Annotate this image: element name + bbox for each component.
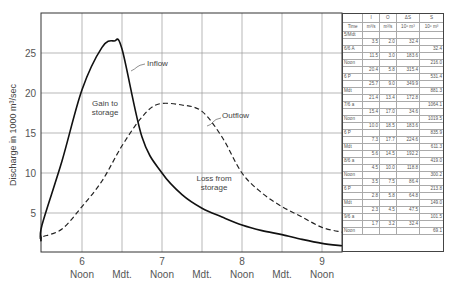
table-cell: 4.5: [380, 207, 397, 214]
table-row: 5/Mdt: [343, 32, 444, 39]
x-axis-ticks: 6NoonMdt.7NoonMdt.8NoonMdt.9Noon: [70, 256, 334, 280]
table-cell: 611.3: [420, 144, 444, 151]
table-cell: [363, 214, 380, 221]
table-cell: [420, 109, 444, 116]
table-cell: [343, 53, 363, 60]
table-cell: [420, 221, 444, 228]
table-cell: 9/6 a: [343, 214, 363, 221]
x-tick-day: 6: [79, 256, 85, 267]
x-tick-label: Noon: [310, 269, 334, 280]
table-row: 3.52.032.4: [343, 39, 444, 46]
table-header: IOΔSSTimem³/sm³/s10⁶ m³10⁶ m³: [343, 14, 444, 32]
table-row: Noon1019.5: [343, 116, 444, 123]
plot-frame: [41, 13, 342, 252]
inflow-leader: [131, 64, 145, 71]
table-cell: [396, 158, 419, 165]
table-row: 20.45.8315.4: [343, 67, 444, 74]
table-cell: 315.4: [396, 67, 419, 74]
table-row: 6 P531.4: [343, 74, 444, 81]
table-cell: 11.5: [363, 53, 380, 60]
table-cell: 10.0: [363, 123, 380, 130]
column-unit: 10⁶ m³: [420, 23, 444, 32]
x-tick-label: Noon: [150, 269, 174, 280]
table-cell: [363, 46, 380, 53]
y-tick-label: 20: [25, 88, 37, 99]
table-cell: [363, 172, 380, 179]
table-row: Noon216.0: [343, 60, 444, 67]
table-row: 11.53.0183.6: [343, 53, 444, 60]
table-cell: Mdt: [343, 88, 363, 95]
table-row: 2.85.864.8: [343, 193, 444, 200]
table-cell: [420, 137, 444, 144]
table-cell: [343, 179, 363, 186]
table-cell: [363, 144, 380, 151]
table-cell: [380, 46, 397, 53]
table-cell: 13.4: [380, 95, 397, 102]
storage-table: IOΔSSTimem³/sm³/s10⁶ m³10⁶ m³ 5/Mdt3.52.…: [342, 13, 444, 235]
table-row: 6/6 A32.4: [343, 46, 444, 53]
table-cell: [380, 130, 397, 137]
x-tick-label: Noon: [230, 269, 254, 280]
table-cell: 1.7: [363, 221, 380, 228]
table-cell: [363, 130, 380, 137]
table-cell: [380, 214, 397, 221]
loss-label-1: Loss from: [196, 174, 231, 183]
table-row: Mdt611.3: [343, 144, 444, 151]
table-cell: 5.8: [380, 193, 397, 200]
table-cell: [396, 88, 419, 95]
table-cell: 118.8: [396, 165, 419, 172]
y-tick-label: 5: [30, 208, 36, 219]
table-cell: Noon: [343, 172, 363, 179]
table-cell: 101.5: [420, 214, 444, 221]
table-row: 10.018.5183.6: [343, 123, 444, 130]
y-tick-label: 10: [25, 168, 37, 179]
table-cell: [363, 88, 380, 95]
column-symbol: [343, 14, 363, 23]
column-unit: 10⁶ m³: [396, 23, 419, 32]
table-cell: 6/6 A: [343, 46, 363, 53]
table-cell: 3.5: [363, 179, 380, 186]
table-cell: [343, 123, 363, 130]
table-cell: Noon: [343, 60, 363, 67]
table-cell: 5.6: [363, 151, 380, 158]
table-cell: [420, 53, 444, 60]
table-cell: [396, 186, 419, 193]
table-cell: 3.5: [363, 39, 380, 46]
table-cell: 1019.5: [420, 116, 444, 123]
table-cell: [420, 67, 444, 74]
table-cell: [420, 123, 444, 130]
table-cell: [363, 116, 380, 123]
table-row: 1.73.232.4: [343, 221, 444, 228]
table-cell: 183.6: [396, 53, 419, 60]
table-cell: 419.0: [420, 158, 444, 165]
table-cell: [380, 228, 397, 235]
table-cell: [380, 88, 397, 95]
table-row: 8/6 a419.0: [343, 158, 444, 165]
table-cell: [420, 32, 444, 39]
table-cell: [343, 81, 363, 88]
y-tick-label: 15: [25, 128, 37, 139]
table-cell: [380, 186, 397, 193]
table-cell: [396, 228, 419, 235]
table-row: 7/6 a1064.1: [343, 102, 444, 109]
column-symbol: I: [363, 14, 380, 23]
table-row: 2.34.547.5: [343, 207, 444, 214]
table-row: Noon69.1: [343, 228, 444, 235]
table-cell: [380, 144, 397, 151]
table-cell: [420, 39, 444, 46]
table-cell: 25.7: [363, 81, 380, 88]
column-unit: m³/s: [363, 23, 380, 32]
table-cell: [380, 102, 397, 109]
table-cell: 20.4: [363, 67, 380, 74]
column-unit: m³/s: [380, 23, 397, 32]
table-cell: 34.6: [396, 109, 419, 116]
table-cell: [396, 214, 419, 221]
table-row: 3.57.586.4: [343, 179, 444, 186]
table-cell: [396, 144, 419, 151]
table-cell: [343, 193, 363, 200]
outflow-line: [40, 103, 342, 238]
table-cell: [396, 172, 419, 179]
table-cell: 4.5: [363, 165, 380, 172]
table-cell: 183.6: [396, 123, 419, 130]
x-tick-day: 8: [239, 256, 245, 267]
